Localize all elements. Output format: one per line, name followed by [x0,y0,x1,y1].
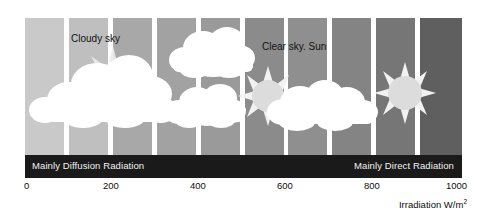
band-9 [420,18,462,178]
tick-label-200: 200 [103,180,119,191]
banner-label-diffusion: Mainly Diffusion Radiation [32,160,144,171]
band-7 [332,18,371,178]
banner-label-direct: Mainly Direct Radiation [354,160,454,171]
x-axis-title-exponent: 2 [463,198,467,205]
tick-label-800: 800 [364,180,380,191]
x-axis-tick-labels: 0 200 400 600 800 1000 [0,180,498,196]
band-0 [25,18,64,178]
radiation-banner: Mainly Diffusion Radiation Mainly Direct… [25,155,462,178]
tick-label-600: 600 [277,180,293,191]
x-axis-title-text: Irradiation W/m [399,199,463,210]
irradiation-figure: Mainly Diffusion Radiation Mainly Direct… [0,0,498,216]
band-3 [157,18,196,178]
band-4 [201,18,240,178]
x-axis-title: Irradiation W/m2 [399,198,467,210]
annotation-cloudy-sky: Cloudy sky [71,33,120,44]
tick-label-0: 0 [24,180,29,191]
annotation-clear-sky-sun: Clear sky. Sun [262,41,326,52]
band-8 [376,18,415,178]
tick-label-400: 400 [190,180,206,191]
tick-label-1000: 1000 [446,180,467,191]
